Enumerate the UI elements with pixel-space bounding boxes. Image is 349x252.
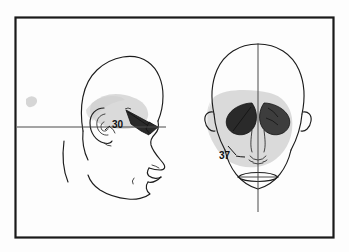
mental-crease xyxy=(132,178,134,184)
occiput-outline xyxy=(83,131,88,160)
callout-label-30: 30 xyxy=(112,119,124,130)
anatomical-figure-plate: 30 xyxy=(0,0,349,252)
nostril-line xyxy=(152,165,159,168)
ear-right xyxy=(301,112,311,131)
lateral-profile-view: 30 xyxy=(17,56,166,199)
anterior-frontal-view: 37 xyxy=(205,44,311,212)
scan-smudge-artifact xyxy=(26,96,37,107)
right-temporal-line xyxy=(291,114,302,150)
chin-and-jaw-profile xyxy=(88,175,150,199)
posterior-neck-line xyxy=(63,141,68,182)
figure-canvas: 30 xyxy=(0,0,349,252)
callout-label-37: 37 xyxy=(219,150,231,161)
